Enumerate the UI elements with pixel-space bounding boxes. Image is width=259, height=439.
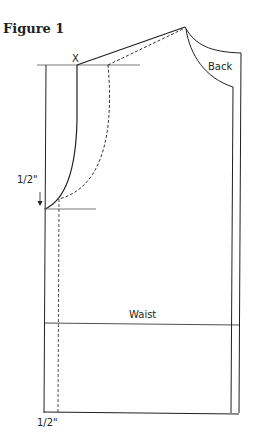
hem-offset-label: 1/2" — [37, 417, 58, 428]
armhole-curve — [45, 65, 77, 209]
hem-line — [44, 412, 239, 414]
dashed-side-seam — [58, 199, 59, 413]
waist-line — [44, 323, 239, 325]
arrowhead-icon — [38, 201, 43, 206]
shoulder-line — [77, 27, 185, 65]
center-back-line — [44, 65, 46, 413]
back-bodice-pattern-diagram: X Back 1/2" Waist 1/2" — [0, 0, 259, 439]
dashed-armhole-curve — [59, 65, 110, 199]
dashed-shoulder-line — [108, 29, 183, 65]
point-x-label: X — [72, 53, 79, 64]
back-label: Back — [208, 61, 232, 72]
waist-label: Waist — [129, 309, 156, 320]
armhole-drop-label: 1/2" — [17, 174, 38, 185]
neckline-inner — [186, 29, 233, 413]
